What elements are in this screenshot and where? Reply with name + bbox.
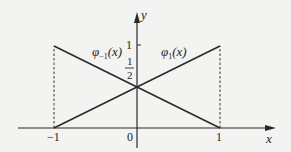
x-tick-label-0: 0	[127, 130, 133, 144]
argument: (x)	[108, 44, 122, 59]
phi-symbol: φ	[92, 44, 99, 59]
phi-symbol: φ	[161, 44, 168, 59]
series-label-phi-1: φ1(x)	[161, 44, 187, 61]
y-axis-label: y	[139, 7, 147, 22]
argument: (x)	[172, 44, 186, 59]
subscript: −1	[99, 52, 108, 61]
function-plot: x y 1 1 2 −1 0 1 φ−1(x) φ1(x)	[0, 0, 291, 152]
y-axis-arrow-icon	[134, 12, 140, 23]
x-tick-label-neg1: −1	[47, 130, 60, 144]
x-axis-label: x	[265, 131, 272, 146]
y-tick-label-half-denominator: 2	[127, 69, 133, 81]
y-tick-label-1: 1	[126, 38, 132, 52]
x-tick-label-1: 1	[216, 130, 222, 144]
y-tick-label-half-numerator: 1	[127, 55, 133, 67]
series-label-phi-neg1: φ−1(x)	[92, 44, 122, 61]
